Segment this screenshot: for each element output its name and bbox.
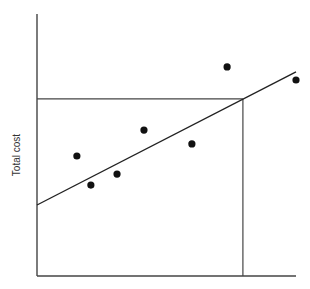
regression-line [37,72,296,205]
y-axis-label: Total cost [11,115,25,195]
scatter-chart [0,0,310,289]
data-point [292,76,299,83]
axes [37,14,296,276]
reference-lines [37,99,243,276]
data-point [113,170,120,177]
data-points [73,63,299,188]
data-point [73,152,80,159]
trend-line [37,72,296,205]
data-point [87,181,94,188]
data-point [188,140,195,147]
data-point [224,63,231,70]
data-point [140,126,147,133]
